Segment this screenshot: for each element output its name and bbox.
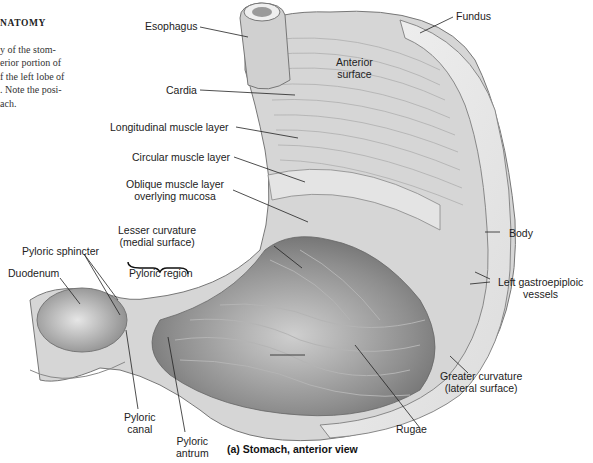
label-cardia: Cardia bbox=[166, 84, 197, 96]
label-pyloric-antrum: Pyloricantrum bbox=[176, 435, 209, 459]
figure-caption: (a) Stomach, anterior view bbox=[227, 443, 358, 455]
label-anterior-surface: Anteriorsurface bbox=[336, 56, 373, 80]
label-circular-muscle: Circular muscle layer bbox=[132, 151, 230, 163]
label-esophagus: Esophagus bbox=[145, 20, 198, 32]
label-pyloric-sphincter: Pyloric sphincter bbox=[22, 245, 99, 257]
label-left-gastroepiploic-vessels: Left gastroepiploicvessels bbox=[498, 276, 583, 300]
label-greater-curvature: Greater curvature(lateral surface) bbox=[440, 370, 522, 394]
label-oblique-muscle: Oblique muscle layeroverlying mucosa bbox=[126, 178, 224, 202]
label-lesser-curvature: Lesser curvature(medial surface) bbox=[118, 224, 196, 248]
label-rugae: Rugae bbox=[396, 423, 427, 435]
label-duodenum: Duodenum bbox=[8, 267, 59, 279]
label-pyloric-region: Pyloric region bbox=[129, 267, 193, 279]
label-longitudinal-muscle: Longitudinal muscle layer bbox=[110, 121, 228, 133]
label-pyloric-canal: Pyloriccanal bbox=[124, 411, 156, 435]
label-fundus: Fundus bbox=[456, 10, 491, 22]
label-body: Body bbox=[509, 227, 533, 239]
